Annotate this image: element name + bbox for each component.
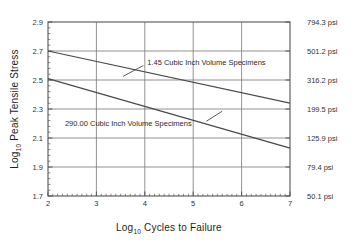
y-axis-tick-label: 1.7 — [33, 192, 43, 201]
right-axis-tick-label: 79.4 psi — [307, 163, 334, 172]
gridlines — [48, 22, 290, 196]
x-axis-tick-label: 2 — [46, 199, 50, 208]
right-axis-tick-label: 501.2 psi — [307, 47, 338, 56]
right-axis-tick-label: 316.2 psi — [307, 76, 338, 85]
y-axis-tick-label: 2.5 — [33, 76, 43, 85]
y-axis-tick-label: 1.9 — [33, 163, 43, 172]
x-axis-tick-label: 6 — [240, 199, 244, 208]
right-axis-tick-label: 794.3 psi — [307, 18, 338, 27]
fatigue-sn-chart: 1.71.92.12.32.52.72.923456750.1 psi79.4 … — [0, 0, 354, 241]
y-axis-tick-label: 2.9 — [33, 18, 43, 27]
y-axis-tick-label: 2.7 — [33, 47, 43, 56]
annotation-leader-line — [206, 111, 222, 121]
x-axis-tick-label: 3 — [94, 199, 98, 208]
x-axis-tick-label: 4 — [143, 199, 147, 208]
y-axis-tick-label: 2.1 — [33, 134, 43, 143]
x-axis-tick-label: 7 — [288, 199, 292, 208]
y-axis-title: Log10 Peak Tensile Stress — [9, 49, 22, 168]
x-axis-title: Log10 Cycles to Failure — [116, 222, 222, 235]
series-annotation-label: 1.45 Cubic Inch Volume Specimens — [147, 58, 266, 67]
series-annotation-label: 290.00 Cubic Inch Volume Specimens — [65, 119, 192, 128]
right-axis-tick-label: 199.5 psi — [307, 105, 338, 114]
y-axis-tick-label: 2.3 — [33, 105, 43, 114]
right-axis-tick-label: 125.9 psi — [307, 134, 338, 143]
axis-tick-labels: 1.71.92.12.32.52.72.923456750.1 psi79.4 … — [33, 18, 338, 208]
chart-container: 1.71.92.12.32.52.72.923456750.1 psi79.4 … — [0, 0, 354, 241]
x-axis-tick-label: 5 — [191, 199, 195, 208]
right-axis-tick-label: 50.1 psi — [307, 192, 334, 201]
